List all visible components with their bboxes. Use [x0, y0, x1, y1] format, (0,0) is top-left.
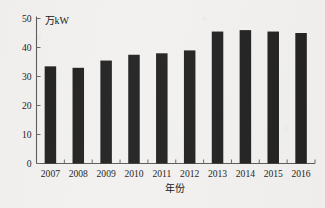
- bar: [73, 68, 85, 164]
- bar: [267, 32, 279, 164]
- y-tick-label: 20: [22, 100, 32, 111]
- bar: [45, 66, 57, 163]
- bar: [184, 50, 196, 163]
- bar-chart-canvas: 01020304050万kW20072008200920102011201220…: [0, 0, 325, 208]
- y-tick-label: 0: [27, 158, 32, 169]
- y-tick-label: 40: [22, 42, 32, 53]
- x-tick-label: 2008: [69, 168, 88, 179]
- x-tick-label: 2011: [152, 168, 171, 179]
- bar: [128, 55, 140, 164]
- x-tick-label: 2015: [264, 168, 283, 179]
- x-axis-title: 年份: [165, 182, 185, 194]
- y-tick-label: 50: [22, 13, 32, 24]
- y-tick-label: 30: [22, 71, 32, 82]
- x-tick-label: 2007: [41, 168, 60, 179]
- x-tick-label: 2016: [291, 168, 310, 179]
- bar: [295, 33, 307, 164]
- chart-figure: 01020304050万kW20072008200920102011201220…: [0, 0, 325, 208]
- x-tick-label: 2014: [236, 168, 255, 179]
- y-axis-unit-label: 万kW: [45, 15, 70, 26]
- y-tick-label: 10: [22, 129, 32, 140]
- bar: [240, 30, 252, 163]
- bar: [212, 32, 224, 164]
- bar: [156, 53, 168, 163]
- bar: [100, 61, 112, 164]
- x-tick-label: 2013: [208, 168, 227, 179]
- x-tick-label: 2010: [124, 168, 143, 179]
- x-tick-label: 2012: [180, 168, 199, 179]
- x-tick-label: 2009: [97, 168, 116, 179]
